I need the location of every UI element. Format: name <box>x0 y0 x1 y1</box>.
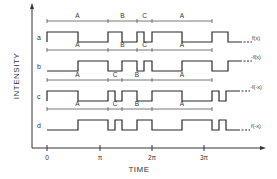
interval-label: A <box>75 71 80 78</box>
interval-label: C <box>142 41 147 48</box>
interval-label: B <box>120 41 124 48</box>
trace-b: ABCAb-f(x) <box>37 41 261 71</box>
function-label: f(x) <box>252 35 260 41</box>
interval-label: B <box>135 71 139 78</box>
waveform <box>47 120 238 130</box>
interval-label: A <box>180 12 185 19</box>
x-tick-label: 3π <box>200 154 209 161</box>
trace-label: b <box>37 63 41 70</box>
y-axis-arrow-icon <box>30 3 34 9</box>
interval-label: A <box>180 41 185 48</box>
interval-label: C <box>113 71 118 78</box>
function-label: -f(-x) <box>250 84 262 90</box>
y-axis-label: INTENSITY <box>12 53 21 99</box>
x-axis-label: TIME <box>128 165 149 174</box>
interval-label: A <box>75 12 80 19</box>
x-tick-label: π <box>98 154 103 161</box>
waveform-diagram: 0π2π3π ABCAaf(x)ABCAb-f(x)ACBAc-f(-x)ACB… <box>0 0 277 179</box>
traces: ABCAaf(x)ABCAb-f(x)ACBAc-f(-x)ACBAdf(-x) <box>37 12 262 130</box>
waveform <box>47 61 240 71</box>
interval-label: A <box>180 71 185 78</box>
x-ticks: 0π2π3π <box>45 145 208 161</box>
interval-label: C <box>142 12 147 19</box>
interval-label: A <box>180 100 185 107</box>
function-label: -f(x) <box>251 54 261 60</box>
interval-label: A <box>75 100 80 107</box>
trace-label: d <box>37 122 41 129</box>
x-axis-arrow-icon <box>260 146 266 150</box>
x-tick-label: 0 <box>45 154 49 161</box>
trace-d: ACBAdf(-x) <box>37 100 261 130</box>
trace-label: c <box>37 93 41 100</box>
interval-label: A <box>75 41 80 48</box>
interval-label: B <box>120 12 124 19</box>
function-label: f(-x) <box>251 123 261 129</box>
trace-c: ACBAc-f(-x) <box>37 71 262 101</box>
x-tick-label: 2π <box>148 154 157 161</box>
trace-a: ABCAaf(x) <box>37 12 260 42</box>
trace-label: a <box>37 34 41 41</box>
interval-label: C <box>113 100 118 107</box>
interval-label: B <box>135 100 139 107</box>
